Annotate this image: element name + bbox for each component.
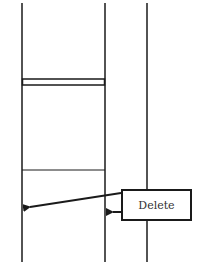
lifeline-diagram [0, 0, 198, 264]
delete-callout: Delete [121, 189, 192, 221]
delete-arrow-left [30, 193, 121, 207]
activation-band [23, 79, 105, 85]
delete-label: Delete [138, 199, 174, 212]
